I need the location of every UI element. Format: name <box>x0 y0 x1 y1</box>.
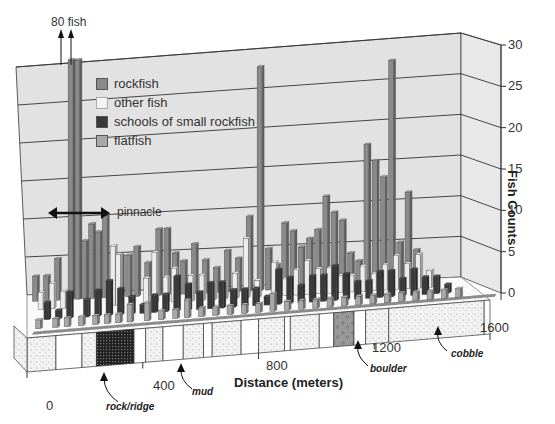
y-tick-0: 0 <box>508 285 515 300</box>
substrate-label-boulder: boulder <box>370 363 407 374</box>
x-axis-title: Distance (meters) <box>234 375 343 390</box>
legend-item-schools: schools of small rockfish <box>96 112 255 131</box>
legend-swatch-schools <box>96 116 108 128</box>
y-tick-20: 20 <box>508 120 522 135</box>
legend-label: flatfish <box>114 133 152 148</box>
y-axis-title: Fish Counts <box>505 170 520 245</box>
legend-swatch-flatfish <box>96 135 108 147</box>
x-tick-800: 800 <box>266 358 288 373</box>
x-tick-400: 400 <box>153 378 175 393</box>
y-tick-5: 5 <box>508 244 515 259</box>
legend-swatch-rockfish <box>96 78 108 90</box>
x-tick-1200: 1200 <box>372 340 401 355</box>
substrate-label-mud: mud <box>192 386 213 397</box>
legend-label: rockfish <box>114 76 159 91</box>
legend-label: schools of small rockfish <box>114 114 255 129</box>
substrate-label-cobble: cobble <box>451 348 483 359</box>
x-tick-1600: 1600 <box>480 320 509 335</box>
x-tick-0: 0 <box>46 398 53 413</box>
y-tick-25: 25 <box>508 78 522 93</box>
off-scale-annotation: 80 fish <box>51 15 86 29</box>
legend-item-rockfish: rockfish <box>96 74 255 93</box>
legend-item-other-fish: other fish <box>96 93 255 112</box>
side-wall <box>461 33 501 293</box>
legend-label: other fish <box>114 95 167 110</box>
substrate-label-rock-ridge: rock/ridge <box>106 401 154 412</box>
legend-item-flatfish: flatfish <box>96 131 255 150</box>
legend-swatch-other-fish <box>96 97 108 109</box>
legend: rockfish other fish schools of small roc… <box>96 74 255 150</box>
y-tick-30: 30 <box>508 37 522 52</box>
pinnacle-annotation: pinnacle <box>117 205 162 219</box>
